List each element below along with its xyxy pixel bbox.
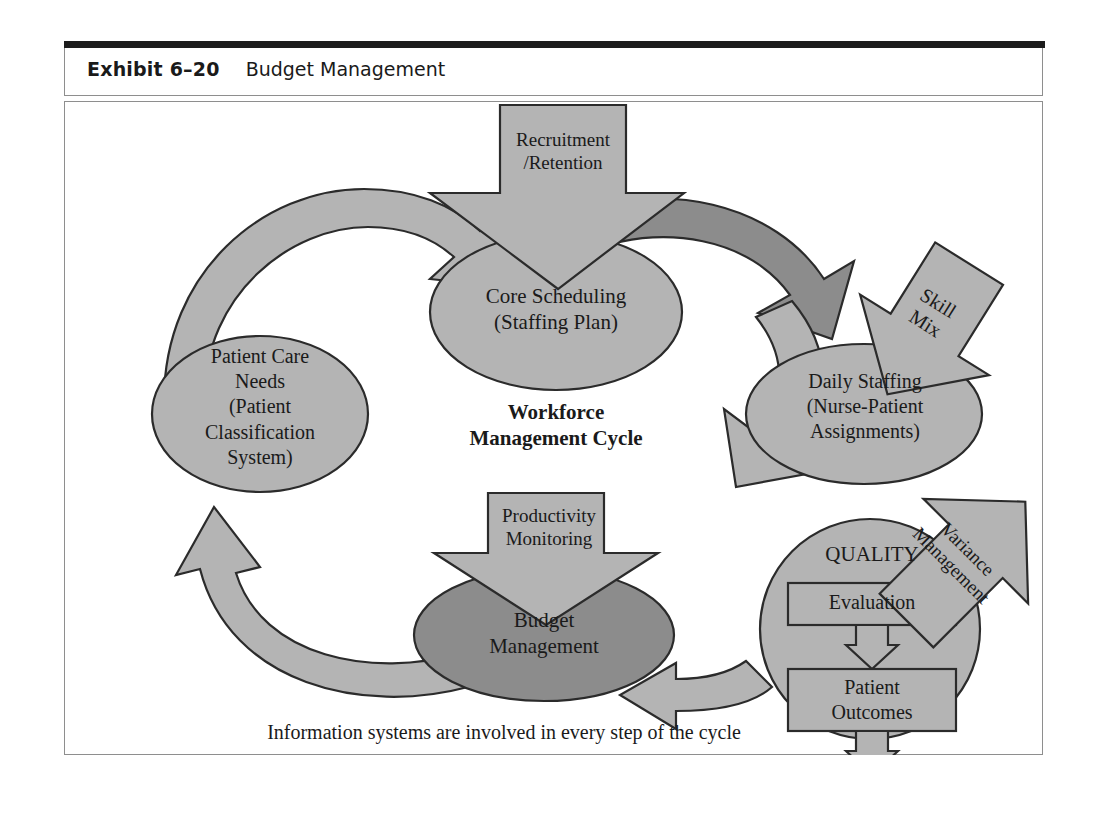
exhibit-header: Exhibit 6–20Budget Management [64, 48, 1043, 96]
diagram-caption: Information systems are involved in ever… [104, 721, 904, 744]
exhibit-top-band [64, 41, 1045, 48]
patient-outcomes-line-1: Patient [788, 675, 956, 700]
diagram-center-label: Workforce Management Cycle [406, 399, 706, 452]
node-quality-title: QUALITY [770, 541, 974, 567]
center-label-line-1: Workforce [406, 399, 706, 425]
exhibit-label: Exhibit 6–20 [87, 58, 220, 80]
quality-box-evaluation-label: Evaluation [788, 590, 956, 615]
cycle-arrow-budget-to-needs [176, 507, 468, 697]
center-label-line-2: Management Cycle [406, 425, 706, 451]
exhibit-title: Budget Management [246, 58, 446, 80]
exhibit-header-text: Exhibit 6–20Budget Management [87, 58, 445, 80]
quality-box-patient-outcomes-label: Patient Outcomes [788, 675, 956, 725]
node-patient-care-needs [152, 336, 368, 492]
workforce-management-cycle-diagram: .lt { fill:#b4b4b4; stroke:#2b2b2b; stro… [64, 101, 1043, 755]
exhibit-page: Exhibit 6–20Budget Management .lt { fill… [0, 0, 1102, 821]
